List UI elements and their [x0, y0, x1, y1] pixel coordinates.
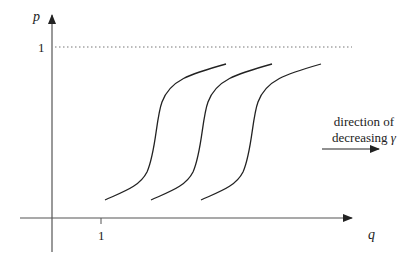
annotation-line2: decreasing γ: [325, 130, 403, 146]
y-axis-label: p: [33, 10, 40, 24]
gamma-symbol: γ: [391, 130, 396, 145]
curve-3: [201, 64, 321, 200]
annotation-word: decreasing: [332, 130, 388, 145]
annotation-line1: direction of: [325, 114, 403, 130]
x-tick-label-1: 1: [98, 229, 105, 242]
y-tick-label-1: 1: [38, 41, 45, 54]
x-axis-label: q: [368, 228, 375, 242]
curve-1: [105, 64, 226, 200]
direction-annotation: direction of decreasing γ: [325, 114, 403, 146]
curve-2: [151, 64, 272, 200]
